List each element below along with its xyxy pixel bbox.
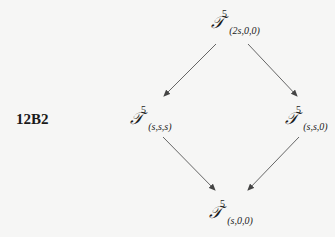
arrow-right-to-bottom — [248, 137, 299, 190]
arrow-top-to-left — [164, 44, 216, 96]
arrows-layer — [0, 0, 335, 237]
arrow-left-to-bottom — [163, 137, 215, 190]
arrow-top-to-right — [248, 44, 297, 96]
